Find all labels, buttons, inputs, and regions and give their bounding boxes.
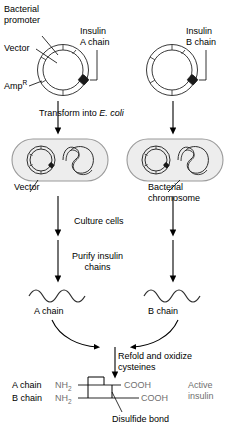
b-chain-polypeptide bbox=[144, 290, 200, 302]
insulin-b-gene-insert bbox=[187, 74, 198, 85]
final-b-chain-label: B chain bbox=[12, 393, 42, 404]
b-chain-label: B chain bbox=[148, 306, 178, 317]
disulfide-leader-line bbox=[112, 392, 122, 412]
purify-insulin-chains-label: Purify insulin chains bbox=[72, 251, 123, 272]
bacterial-chromosome-label: Bacterial chromosome bbox=[148, 182, 200, 203]
nh2-b-sub: 2 bbox=[68, 398, 72, 405]
amp-text: Amp bbox=[4, 81, 23, 91]
disulfide-bond-label: Disulfide bond bbox=[112, 414, 169, 425]
nh2-b-text: NH bbox=[55, 393, 68, 403]
bacterial-promoter-label: Bacterial promoter bbox=[4, 4, 40, 25]
transform-text: Transform into bbox=[39, 108, 99, 118]
insulin-production-diagram: Bacterial promoter Vector AmpR Insulin A… bbox=[0, 0, 230, 430]
converge-arrow-right bbox=[133, 320, 178, 347]
amp-resistance-label: AmpR bbox=[4, 81, 27, 92]
final-a-chain-label: A chain bbox=[12, 380, 42, 391]
diagram-graphics bbox=[0, 0, 230, 430]
active-insulin-label: Active insulin bbox=[188, 380, 214, 401]
amp-superscript: R bbox=[23, 79, 28, 86]
refold-oxidize-label: Refold and oxidize cysteines bbox=[118, 351, 192, 372]
vector-cell-label: Vector bbox=[14, 182, 40, 193]
vector-leader-line bbox=[36, 49, 57, 63]
insulin-a-gene-insert bbox=[78, 74, 89, 85]
ecoli-species-name: E. coli bbox=[99, 108, 124, 118]
plasmid-a-chain bbox=[38, 45, 90, 96]
culture-cells-label: Culture cells bbox=[74, 216, 124, 227]
amp-leader-line bbox=[29, 81, 42, 86]
nh2-b-terminus: NH2 bbox=[55, 393, 72, 407]
insulin-b-chain-label: Insulin B chain bbox=[186, 26, 216, 47]
transform-step-label: Transform into E. coli bbox=[39, 108, 124, 119]
bacterial-cell-right bbox=[127, 139, 223, 181]
promoter-leader-line bbox=[42, 36, 58, 55]
nh2-a-text: NH bbox=[55, 380, 68, 390]
intrachain-disulfide-loop bbox=[88, 377, 104, 385]
nh2-a-sub: 2 bbox=[68, 385, 72, 392]
a-chain-label: A chain bbox=[34, 306, 64, 317]
bacterial-cell-left bbox=[12, 139, 108, 181]
insulin-a-chain-label: Insulin A chain bbox=[80, 26, 110, 47]
converge-arrow-left bbox=[52, 320, 97, 347]
cooh-b-terminus: COOH bbox=[141, 393, 168, 404]
vector-top-label: Vector bbox=[4, 43, 30, 54]
plasmid-b-chain bbox=[147, 45, 199, 96]
cooh-a-terminus: COOH bbox=[124, 380, 151, 391]
a-chain-polypeptide bbox=[29, 290, 85, 302]
